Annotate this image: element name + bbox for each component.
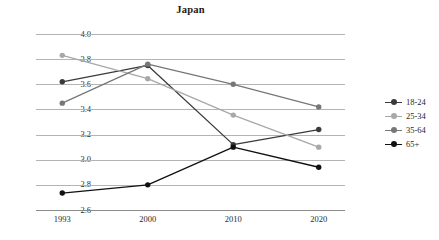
legend-marker-icon	[385, 125, 402, 135]
series-lines	[36, 34, 345, 210]
series-line	[62, 64, 318, 107]
legend-label: 35-64	[406, 125, 426, 135]
legend-item-65+[interactable]: 65+	[385, 137, 439, 151]
data-point	[60, 53, 65, 58]
data-point	[231, 82, 236, 87]
data-point	[231, 144, 236, 149]
data-point	[60, 100, 65, 105]
data-point	[231, 112, 236, 117]
series-25-34	[60, 53, 322, 150]
legend-label: 65+	[406, 139, 419, 149]
series-line	[62, 55, 318, 147]
plot-area	[36, 34, 345, 210]
series-35-64	[60, 61, 322, 109]
x-tick-label: 1993	[39, 214, 85, 224]
data-point	[316, 165, 321, 170]
chart-legend: 18-2425-3435-6465+	[385, 95, 439, 151]
data-point	[60, 79, 65, 84]
legend-item-35-64[interactable]: 35-64	[385, 123, 439, 137]
data-point	[316, 104, 321, 109]
legend-label: 18-24	[406, 97, 426, 107]
series-18-24	[60, 63, 322, 148]
chart-title: Japan	[36, 4, 345, 16]
data-point	[145, 76, 150, 81]
legend-marker-icon	[385, 139, 402, 149]
legend-marker-icon	[385, 97, 402, 107]
legend-label: 25-34	[406, 111, 426, 121]
data-point	[145, 182, 150, 187]
data-point	[145, 61, 150, 66]
x-tick-label: 2010	[210, 214, 256, 224]
legend-item-25-34[interactable]: 25-34	[385, 109, 439, 123]
data-point	[316, 144, 321, 149]
chart-container: Japan 4.03.83.63.43.23.02.82.6 199320002…	[0, 0, 439, 240]
gridline-2.6	[36, 210, 345, 211]
series-line	[62, 147, 318, 193]
legend-marker-icon	[385, 111, 402, 121]
x-tick-label: 2020	[296, 214, 342, 224]
series-65+	[60, 144, 322, 195]
data-point	[60, 190, 65, 195]
x-tick-label: 2000	[125, 214, 171, 224]
data-point	[316, 127, 321, 132]
legend-item-18-24[interactable]: 18-24	[385, 95, 439, 109]
